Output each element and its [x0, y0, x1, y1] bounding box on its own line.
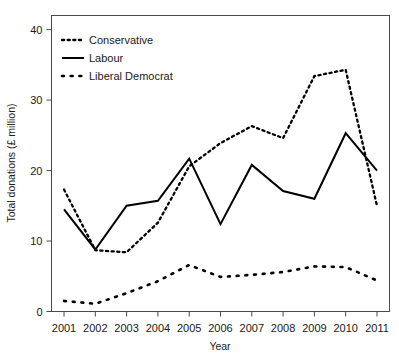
x-tick-label: 2007	[240, 322, 264, 334]
y-axis-title: Total donations (£ million)	[5, 103, 17, 222]
x-tick-label: 2002	[83, 322, 107, 334]
y-tick-label: 10	[30, 235, 42, 247]
legend-label-labour: Labour	[89, 52, 124, 64]
y-tick-label: 20	[30, 165, 42, 177]
x-tick-label: 2008	[271, 322, 295, 334]
y-tick-label: 30	[30, 94, 42, 106]
legend-label-conservative: Conservative	[89, 34, 153, 46]
chart-background	[0, 0, 399, 355]
x-tick-label: 2003	[114, 322, 138, 334]
donations-line-chart: 010203040 200120022003200420052006200720…	[0, 0, 399, 355]
x-tick-label: 2006	[208, 322, 232, 334]
chart-svg: 010203040 200120022003200420052006200720…	[0, 0, 399, 355]
y-tick-label: 40	[30, 24, 42, 36]
x-tick-label: 2005	[177, 322, 201, 334]
x-tick-label: 2001	[52, 322, 76, 334]
x-tick-label: 2010	[333, 322, 357, 334]
y-tick-label: 0	[36, 306, 42, 318]
x-tick-label: 2011	[365, 322, 389, 334]
x-tick-label: 2004	[146, 322, 170, 334]
x-axis-title: Year	[209, 340, 231, 352]
legend-label-liberal-democrat: Liberal Democrat	[89, 70, 173, 82]
x-tick-label: 2009	[302, 322, 326, 334]
